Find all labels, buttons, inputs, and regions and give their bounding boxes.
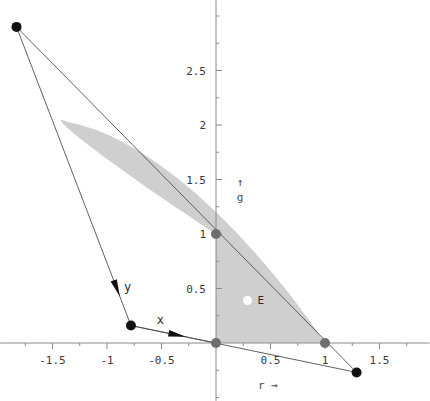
x-tick-label: -1	[100, 354, 113, 367]
x-tick-label: -1.5	[39, 354, 66, 367]
vector-arrowhead-x	[168, 330, 186, 337]
point-label-E: E	[257, 294, 264, 307]
marker-black-vertices	[12, 22, 22, 32]
marker-black-vertices	[352, 367, 362, 377]
x-tick-label: 0.5	[261, 354, 281, 367]
shaded-region-group	[61, 120, 325, 343]
y-tick-label: 2.5	[186, 65, 206, 78]
y-tick-label: 1	[199, 228, 206, 241]
marker-equal-energy-point	[243, 296, 252, 305]
marker-black-vertices	[126, 321, 136, 331]
x-axis-label: r →	[258, 379, 278, 392]
y-tick-label: 1.5	[186, 174, 206, 187]
x-tick-label: 1.5	[370, 354, 390, 367]
hull-lines-group	[17, 27, 357, 373]
scatter-plot-svg: -1.5-1-0.50.511.50.511.522.5 Exy r → ↑ g	[0, 0, 430, 401]
y-axis-arrow-icon: ↑	[237, 176, 244, 189]
vector-label-y: y	[124, 280, 131, 294]
chart-canvas: -1.5-1-0.50.511.50.511.522.5 Exy r → ↑ g	[0, 0, 430, 401]
x-tick-label: -0.5	[148, 354, 175, 367]
shaded-chromaticity-region	[61, 120, 325, 343]
vector-arrowhead-y	[111, 279, 120, 296]
y-tick-label: 0.5	[186, 283, 206, 296]
y-axis-label: g	[237, 191, 244, 204]
x-tick-label: 1	[322, 354, 329, 367]
y-tick-label: 2	[199, 119, 206, 132]
hull-line-upper-hull	[17, 27, 357, 373]
marker-gray-vertices	[320, 338, 330, 348]
vector-label-x: x	[157, 313, 164, 327]
marker-gray-vertices	[211, 229, 221, 239]
marker-gray-vertices	[211, 338, 221, 348]
